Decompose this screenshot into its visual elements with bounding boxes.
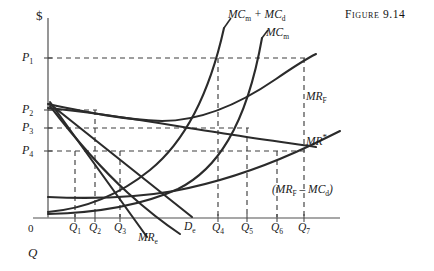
curve-mr-f: [48, 54, 316, 121]
y-axis-label: $: [36, 8, 43, 24]
curve-label-net-mr: (MRF – MCd): [272, 183, 333, 198]
curve-label-d-e: De: [184, 220, 196, 235]
price-tick-label-p4: P4: [22, 143, 33, 159]
origin-label: 0: [28, 222, 34, 234]
price-tick-label-p2: P2: [22, 102, 33, 118]
quantity-tick-label-q2: Q2: [89, 221, 101, 236]
quantity-tick-label-q4: Q4: [212, 221, 224, 236]
price-tick-label-p1: P1: [22, 50, 33, 66]
quantity-tick-label-q5: Q5: [241, 221, 253, 236]
x-axis-label: Q: [28, 245, 37, 261]
curve-label-mr-e: MRe: [138, 231, 158, 246]
curve-label-mc-sum: MCm + MCd: [228, 8, 286, 23]
price-tick-label-p3: P3: [22, 120, 33, 136]
quantity-tick-label-q1: Q1: [69, 221, 81, 236]
horizontal-guide-lines: [48, 58, 306, 151]
curve-label-mr-f: MRF: [306, 90, 327, 105]
quantity-tick-label-q7: Q7: [298, 221, 310, 236]
quantity-tick-label-q6: Q6: [271, 221, 283, 236]
figure-container: Figure 9.14 $ Q 0 P1 P2 P3 P4 Q1 Q2 Q3 Q…: [0, 0, 434, 271]
curve-label-mr-star: MR*: [306, 132, 327, 147]
quantity-tick-label-q3: Q3: [114, 221, 126, 236]
vertical-guide-lines: [75, 58, 304, 217]
figure-caption: Figure 9.14: [345, 8, 405, 20]
curve-label-mc-m: MCm: [266, 26, 289, 41]
curve-net-mr: [50, 106, 180, 234]
